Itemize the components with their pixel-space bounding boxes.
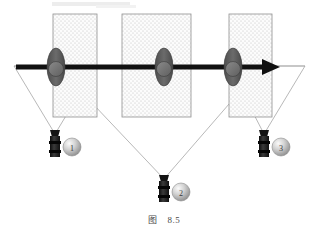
figure-container: 1 2 3 图8.5 xyxy=(0,0,317,226)
diagram-canvas: 1 2 3 xyxy=(0,0,317,226)
caption-label: 图 xyxy=(148,213,158,226)
camera-3-body xyxy=(259,136,269,157)
node-middle xyxy=(155,48,173,86)
camera-2-label: 2 xyxy=(179,189,183,198)
camera-3-lens xyxy=(259,130,269,137)
camera-1[interactable]: 1 xyxy=(49,130,81,157)
node-left xyxy=(47,48,65,86)
figure-caption: 图8.5 xyxy=(0,203,317,226)
caption-number: 8.5 xyxy=(167,215,180,225)
camera-2-body xyxy=(159,181,169,202)
camera-3-label: 3 xyxy=(279,144,283,153)
camera-1-lens xyxy=(50,130,60,137)
scan-artifact xyxy=(52,2,136,8)
camera-1-label: 1 xyxy=(70,144,74,153)
node-right xyxy=(224,48,242,86)
camera-3[interactable]: 3 xyxy=(258,130,290,157)
camera-2-lens xyxy=(159,175,169,182)
camera-2[interactable]: 2 xyxy=(158,175,190,202)
camera-1-body xyxy=(50,136,60,157)
